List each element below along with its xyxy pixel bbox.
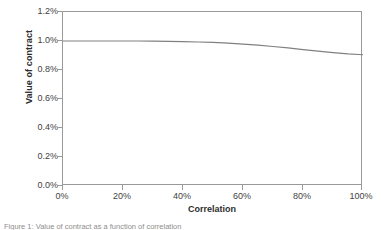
y-tick-label: 0.0% [18,180,58,190]
y-tick-label: 0.8% [18,64,58,74]
y-tick-label: 1.0% [18,35,58,45]
x-axis-title: Correlation [62,204,362,214]
y-tick-label: 0.6% [18,93,58,103]
y-tick-label: 0.4% [18,122,58,132]
figure-caption: Figure 1: Value of contract as a functio… [4,222,378,230]
y-tick-label: 1.2% [18,6,58,16]
x-tick-label: 40% [152,191,212,201]
x-tick-mark [122,185,123,190]
x-tick-mark [302,185,303,190]
x-tick-label: 0% [32,191,92,201]
x-tick-label: 100% [331,191,381,201]
plot-area [62,11,362,185]
y-tick-label: 0.2% [18,151,58,161]
x-tick-mark [242,185,243,190]
x-tick-label: 80% [272,191,332,201]
series-line-value-of-contract [63,12,363,186]
x-tick-label: 20% [92,191,152,201]
x-tick-mark [62,185,63,190]
x-tick-label: 60% [212,191,272,201]
chart-figure: Value of contract 1.2% 1.0% 0.8% 0.6% 0.… [0,0,381,230]
x-tick-mark [361,185,362,190]
x-tick-mark [182,185,183,190]
